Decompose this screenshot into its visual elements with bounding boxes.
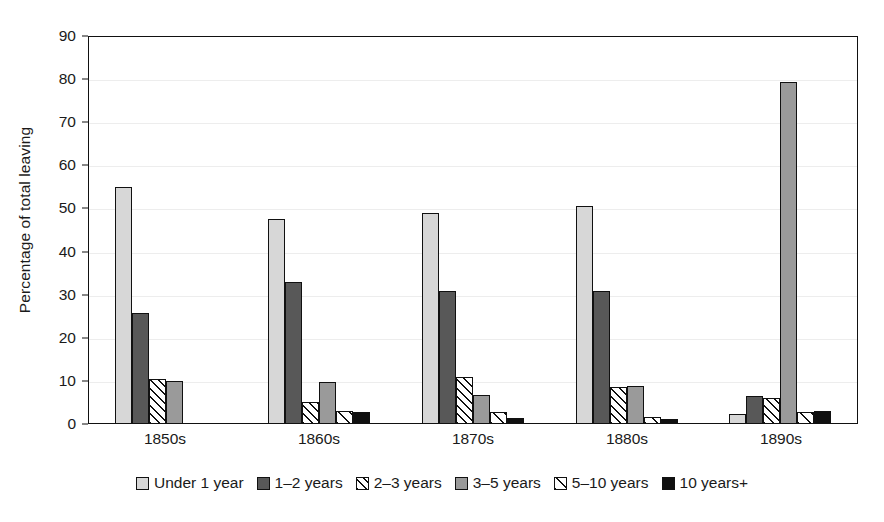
bar xyxy=(490,412,507,423)
y-axis-tick-label: 50 xyxy=(59,199,76,217)
bar xyxy=(814,411,831,423)
bar xyxy=(166,381,183,423)
bar xyxy=(285,282,302,423)
bar xyxy=(422,213,439,423)
legend-swatch-icon xyxy=(455,477,468,490)
bar xyxy=(268,219,285,423)
bar xyxy=(115,187,132,423)
y-axis-tick-label: 10 xyxy=(59,372,76,390)
bar-group xyxy=(396,37,550,423)
legend-item[interactable]: Under 1 year xyxy=(136,474,244,492)
legend-item[interactable]: 3–5 years xyxy=(455,474,541,492)
legend-swatch-icon xyxy=(662,477,675,490)
y-axis-tick-label: 0 xyxy=(67,415,76,433)
bar xyxy=(353,412,370,423)
bar xyxy=(746,396,763,423)
legend-swatch-icon xyxy=(257,477,270,490)
bar xyxy=(473,395,490,423)
legend-item-label: 1–2 years xyxy=(275,474,343,492)
x-axis-tick-label: 1860s xyxy=(242,430,396,448)
x-axis-tick-labels: 1850s1860s1870s1880s1890s xyxy=(88,430,858,448)
bar xyxy=(302,402,319,423)
legend-item[interactable]: 1–2 years xyxy=(257,474,343,492)
bar xyxy=(132,313,149,423)
bar xyxy=(797,412,814,423)
bar xyxy=(729,414,746,423)
y-axis-tick-labels: 9080706050403020100 xyxy=(40,36,76,424)
legend-item-label: 5–10 years xyxy=(572,474,649,492)
y-axis-title-text: Percentage of total leaving xyxy=(16,127,34,313)
plot-area xyxy=(88,36,858,424)
bar xyxy=(336,411,353,423)
x-axis-tick-label: 1850s xyxy=(88,430,242,448)
legend-item-label: 2–3 years xyxy=(374,474,442,492)
legend-item-label: 3–5 years xyxy=(473,474,541,492)
bar xyxy=(507,418,524,423)
y-axis-tick-label: 60 xyxy=(59,156,76,174)
bar xyxy=(610,387,627,423)
bar xyxy=(780,82,797,423)
bar-group xyxy=(703,37,857,423)
chart-legend: Under 1 year1–2 years2–3 years3–5 years5… xyxy=(0,474,884,492)
bar-group xyxy=(89,37,243,423)
legend-swatch-icon xyxy=(356,477,369,490)
x-axis-tick-label: 1870s xyxy=(396,430,550,448)
legend-swatch-icon xyxy=(554,477,567,490)
y-axis-tick-label: 20 xyxy=(59,329,76,347)
legend-item-label: Under 1 year xyxy=(154,474,244,492)
bar xyxy=(627,386,644,424)
bar xyxy=(149,379,166,423)
y-axis-tick-label: 90 xyxy=(59,27,76,45)
bar xyxy=(644,417,661,423)
bar-group xyxy=(243,37,397,423)
bar xyxy=(593,291,610,423)
bar xyxy=(763,398,780,423)
bar xyxy=(456,377,473,423)
bar xyxy=(661,419,678,423)
bar-group xyxy=(550,37,704,423)
legend-item[interactable]: 2–3 years xyxy=(356,474,442,492)
bar xyxy=(319,382,336,423)
bar-groups xyxy=(89,37,857,423)
legend-item-label: 10 years+ xyxy=(680,474,749,492)
legend-item[interactable]: 5–10 years xyxy=(554,474,649,492)
legend-item[interactable]: 10 years+ xyxy=(662,474,749,492)
y-axis-title: Percentage of total leaving xyxy=(10,0,40,440)
y-axis-tick-label: 80 xyxy=(59,70,76,88)
bar-chart-figure: Percentage of total leaving 908070605040… xyxy=(0,0,884,522)
bar xyxy=(439,291,456,423)
bar xyxy=(576,206,593,423)
y-axis-tick-label: 40 xyxy=(59,243,76,261)
legend-swatch-icon xyxy=(136,477,149,490)
x-axis-tick-label: 1890s xyxy=(704,430,858,448)
y-axis-tick-label: 30 xyxy=(59,286,76,304)
x-axis-tick-label: 1880s xyxy=(550,430,704,448)
y-axis-tick-label: 70 xyxy=(59,113,76,131)
